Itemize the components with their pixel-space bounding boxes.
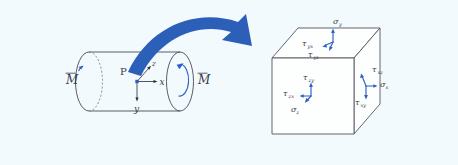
label-sigma-x-subscript: x — [386, 84, 389, 90]
figure-canvas: M M P x y — [0, 0, 458, 165]
label-tau-xy-symbol: τ — [355, 98, 360, 107]
moment-right-label: M — [197, 73, 211, 87]
label-sigma-z-subscript: z — [296, 109, 300, 115]
x-axis-label: x — [160, 77, 165, 87]
label-sigma-y-subscript: y — [338, 21, 342, 28]
label-tau-yz-subscript: yz — [313, 54, 320, 61]
moment-right-text: M — [197, 73, 211, 87]
label-tau-zx-symbol: τ — [283, 89, 288, 98]
z-axis-label: z — [151, 60, 156, 68]
y-axis-label: y — [133, 104, 140, 114]
point-p-marker — [135, 80, 138, 83]
label-tau-zy-subscript: zy — [308, 77, 315, 84]
label-tau-xz-subscript: xz — [378, 69, 384, 75]
label-tau-xz-symbol: τ — [372, 65, 377, 74]
moment-left-label: M — [65, 73, 79, 87]
label-tau-xy-subscript: xy — [361, 102, 367, 109]
label-tau-yx-subscript: yx — [307, 43, 314, 50]
label-tau-zy-symbol: τ — [303, 73, 308, 82]
point-p-label: P — [120, 66, 127, 77]
label-tau-zx-subscript: zx — [288, 93, 295, 99]
moment-left-text: M — [65, 73, 79, 87]
label-tau-yz-symbol: τ — [308, 50, 313, 59]
label-tau-yx-symbol: τ — [302, 39, 307, 48]
stress-element-figure: M M P x y — [0, 0, 458, 165]
